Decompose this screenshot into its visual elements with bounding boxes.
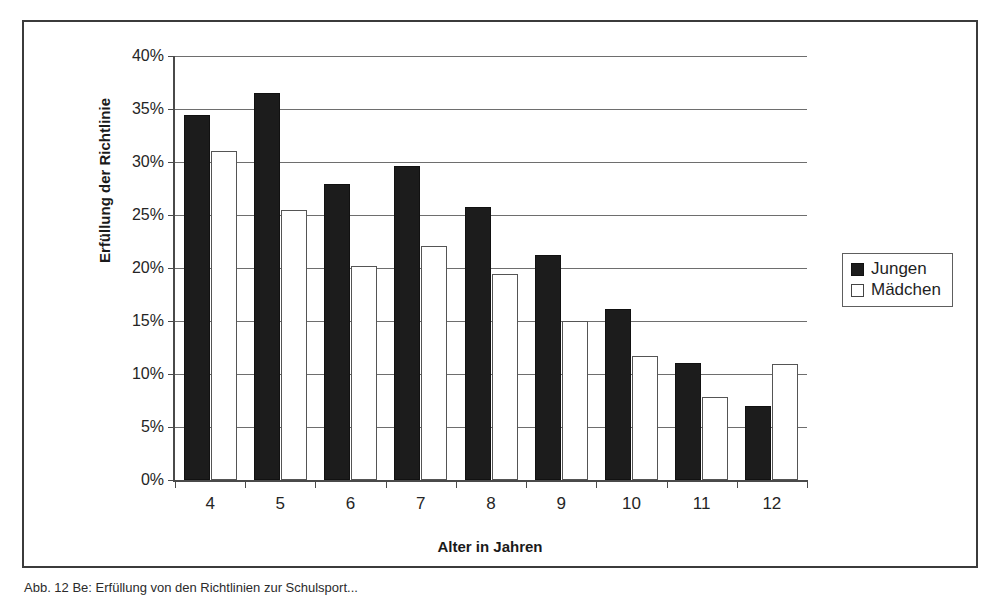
bar-jungen-age-7 [394, 166, 420, 480]
x-tick-mark [456, 480, 457, 488]
y-axis-title: Erfüllung der Richtlinie [96, 71, 113, 291]
empty-square-icon [851, 284, 864, 297]
x-tick-mark [807, 480, 808, 488]
y-tick-mark [168, 268, 175, 269]
bar-jungen-age-6 [324, 184, 350, 480]
x-tick-mark [315, 480, 316, 488]
bar-jungen-age-8 [465, 207, 491, 480]
bar-jungen-age-11 [675, 363, 701, 480]
bar-mädchen-age-6 [351, 266, 377, 480]
x-tick-label: 4 [205, 494, 214, 514]
bar-mädchen-age-5 [281, 210, 307, 480]
figure-caption: Abb. 12 Be: Erfüllung von den Richtlinie… [24, 580, 358, 595]
y-tick-mark [168, 374, 175, 375]
bar-mädchen-age-4 [211, 151, 237, 480]
legend-item-maedchen: Mädchen [851, 280, 941, 301]
x-tick-label: 10 [622, 494, 641, 514]
bar-jungen-age-9 [535, 255, 561, 480]
x-tick-mark [737, 480, 738, 488]
y-tick-label: 40% [132, 47, 164, 65]
x-tick-mark [245, 480, 246, 488]
y-tick-label: 5% [141, 418, 164, 436]
y-tick-label: 15% [132, 312, 164, 330]
y-tick-label: 30% [132, 153, 164, 171]
chart-frame: Erfüllung der Richtlinie 0%5%10%15%20%25… [22, 20, 978, 568]
y-tick-label: 20% [132, 259, 164, 277]
bar-mädchen-age-9 [562, 321, 588, 480]
y-tick-mark [168, 109, 175, 110]
x-tick-mark [596, 480, 597, 488]
y-tick-label: 0% [141, 471, 164, 489]
y-tick-label: 10% [132, 365, 164, 383]
bar-mädchen-age-12 [772, 364, 798, 480]
bar-mädchen-age-11 [702, 397, 728, 480]
chart-legend: Jungen Mädchen [842, 253, 953, 307]
legend-label-jungen: Jungen [871, 259, 927, 280]
x-tick-label: 6 [346, 494, 355, 514]
bar-mädchen-age-8 [492, 274, 518, 480]
x-tick-mark [667, 480, 668, 488]
y-tick-mark [168, 215, 175, 216]
x-tick-label: 5 [276, 494, 285, 514]
x-tick-mark [175, 480, 176, 488]
plot-area: 0%5%10%15%20%25%30%35%40% 456789101112 [173, 56, 807, 482]
x-tick-label: 12 [762, 494, 781, 514]
x-tick-mark [386, 480, 387, 488]
bar-mädchen-age-10 [632, 356, 658, 480]
x-tick-mark [526, 480, 527, 488]
y-tick-mark [168, 480, 175, 481]
bar-jungen-age-5 [254, 93, 280, 480]
x-axis-title: Alter in Jahren [173, 538, 807, 555]
bar-jungen-age-12 [745, 406, 771, 480]
x-tick-label: 9 [556, 494, 565, 514]
y-tick-mark [168, 162, 175, 163]
y-tick-mark [168, 427, 175, 428]
x-tick-label: 7 [416, 494, 425, 514]
x-tick-label: 11 [693, 494, 711, 514]
y-tick-label: 35% [132, 100, 164, 118]
bar-jungen-age-10 [605, 309, 631, 480]
bar-mädchen-age-7 [421, 246, 447, 480]
bar-jungen-age-4 [184, 115, 210, 480]
legend-label-maedchen: Mädchen [871, 280, 941, 301]
y-tick-mark [168, 321, 175, 322]
filled-square-icon [851, 263, 864, 276]
y-tick-label: 25% [132, 206, 164, 224]
legend-item-jungen: Jungen [851, 259, 941, 280]
y-tick-mark [168, 56, 175, 57]
bars-layer [175, 56, 807, 480]
x-tick-label: 8 [486, 494, 495, 514]
